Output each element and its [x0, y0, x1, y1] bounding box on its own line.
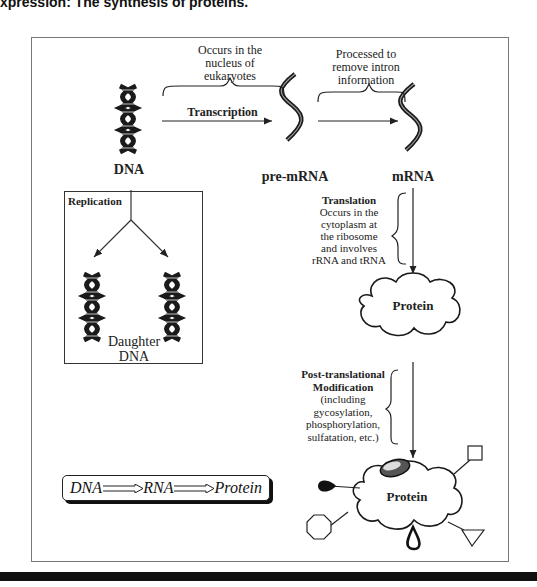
attached-triangle-icon [462, 530, 484, 546]
dogma-dna: DNA [70, 479, 102, 497]
replication-label: Replication [68, 195, 130, 208]
attached-teardrop-black-icon [318, 480, 336, 491]
attached-octagon-icon [307, 515, 331, 539]
dogma-protein: Protein [215, 479, 262, 497]
double-arrow-icon [103, 484, 143, 493]
modified-protein-label: Protein [372, 490, 442, 503]
translation-note: Translation Occurs in the cytoplasm at t… [305, 194, 393, 266]
nucleus-note: Occurs in the nucleus of eukaryotes [180, 44, 280, 83]
protein-label: Protein [378, 299, 448, 312]
pre-mrna-label: pre-mRNA [255, 170, 335, 183]
dna-helix-icon [120, 86, 136, 152]
processing-note: Processed to remove intron information [316, 48, 416, 87]
pre-mrna-strand-icon [281, 74, 301, 140]
attached-square-icon [468, 446, 482, 460]
dna-label: DNA [104, 163, 154, 176]
translation-brace [392, 193, 406, 264]
double-arrow-icon [174, 484, 214, 493]
mrna-strand-icon [400, 84, 420, 150]
transcription-label: Transcription [175, 106, 270, 119]
post-translational-note: Post-translational Modification (includi… [296, 368, 390, 443]
central-dogma-box: DNA RNA Protein [62, 475, 270, 501]
dogma-rna: RNA [143, 479, 173, 497]
mrna-label: mRNA [385, 170, 441, 183]
bottom-rule [0, 572, 537, 581]
attached-drop-icon [407, 527, 419, 549]
daughter-dna-label: Daughter DNA [94, 334, 174, 364]
